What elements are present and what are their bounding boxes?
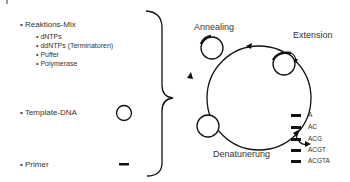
fragment-acgta-label: ACGTA [308, 158, 330, 165]
primer-bar-icon [119, 163, 129, 166]
denaturation-node [197, 115, 219, 137]
fragment-bar-icon [291, 160, 301, 163]
pcr-cycle-diagram [0, 0, 350, 182]
fragment-bar-icon [291, 149, 301, 152]
fragment-bar-icon [291, 126, 301, 129]
fragment-a-label: A [308, 112, 312, 119]
fragment-ac-label: AC [308, 124, 317, 131]
fragment-acgt-label: ACGT [308, 147, 326, 154]
template-dna-circle-icon [117, 106, 132, 121]
fragment-acg-label: ACG [308, 136, 322, 143]
cycle-arrow-top-icon [246, 43, 252, 49]
fragment-bar-icon [291, 114, 301, 117]
fragment-bar-icon [291, 138, 301, 141]
step-annealing-label: Annealing [194, 23, 234, 32]
cycle-arrow-left-icon [187, 72, 193, 79]
step-denaturation-label: Denaturierung [213, 150, 270, 159]
step-extension-label: Extension [293, 31, 333, 40]
curly-brace-icon [146, 11, 173, 176]
